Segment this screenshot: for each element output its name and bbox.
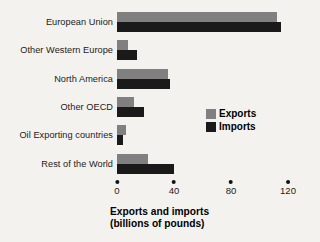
category-axis-labels: European UnionOther Western EuropeNorth …	[0, 0, 113, 178]
category-label: European Union	[0, 17, 113, 27]
legend-swatch-icon	[206, 122, 216, 132]
bar-imports	[117, 50, 137, 60]
bar-group	[117, 154, 313, 174]
category-label: Oil Exporting countries	[0, 130, 113, 140]
axis-tick: 120	[280, 180, 296, 196]
plot-area	[117, 8, 313, 178]
category-label: North America	[0, 74, 113, 84]
bar-exports	[117, 69, 168, 79]
category-label: Other OECD	[0, 102, 113, 112]
legend-label: Imports	[219, 121, 256, 132]
legend-label: Exports	[219, 108, 256, 119]
bar-exports	[117, 125, 126, 135]
axis-tick-label: 40	[169, 186, 180, 196]
axis-tick-dot-icon	[286, 180, 290, 184]
bar-exports	[117, 154, 148, 164]
bar-group	[117, 69, 313, 89]
value-axis: 04080120	[117, 180, 317, 204]
legend-item: Exports	[206, 107, 256, 120]
legend-item: Imports	[206, 120, 256, 133]
axis-tick-dot-icon	[229, 180, 233, 184]
bar-group	[117, 40, 313, 60]
axis-tick: 0	[114, 180, 119, 196]
horizontal-bar-chart: European UnionOther Western EuropeNorth …	[0, 0, 320, 242]
axis-tick-label: 0	[114, 186, 119, 196]
bar-imports	[117, 107, 144, 117]
axis-title-line-1: Exports and imports	[110, 206, 310, 218]
bar-group	[117, 12, 313, 32]
chart-legend: ExportsImports	[206, 107, 256, 133]
bar-exports	[117, 40, 128, 50]
bar-imports	[117, 164, 174, 174]
bar-imports	[117, 135, 123, 145]
axis-tick-dot-icon	[172, 180, 176, 184]
category-label: Other Western Europe	[0, 45, 113, 55]
axis-title-line-2: (billions of pounds)	[110, 218, 310, 230]
legend-swatch-icon	[206, 109, 216, 119]
axis-tick-dot-icon	[115, 180, 119, 184]
bar-exports	[117, 12, 277, 22]
bar-imports	[117, 79, 170, 89]
axis-tick: 80	[226, 180, 237, 196]
axis-tick: 40	[169, 180, 180, 196]
axis-tick-label: 80	[226, 186, 237, 196]
axis-tick-label: 120	[280, 186, 296, 196]
bar-exports	[117, 97, 134, 107]
category-label: Rest of the World	[0, 159, 113, 169]
bar-imports	[117, 22, 281, 32]
axis-title: Exports and imports (billions of pounds)	[110, 206, 310, 229]
